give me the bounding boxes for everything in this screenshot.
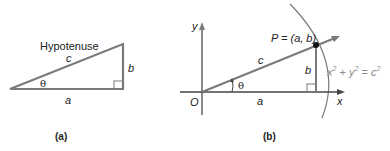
caption-a: (a) (55, 131, 67, 142)
y-axis-label: y (191, 20, 199, 32)
caption-b: (b) (263, 131, 276, 142)
side-b-label: b (128, 62, 134, 74)
right-angle-marker (114, 81, 123, 89)
point-p-label: P = (a, b) (271, 32, 316, 44)
side-a-label: a (65, 94, 71, 106)
side-c-label: c (66, 52, 72, 64)
theta-label: θ (40, 78, 46, 89)
panel-a: Hypotenuse c b a θ (a) (10, 40, 134, 142)
side-b-label: b (305, 64, 311, 76)
origin-label: O (190, 96, 199, 108)
right-angle-marker (307, 84, 316, 92)
panel-b: y x O P = (a, b) c b a θ x2 + y2 = c2 (b… (180, 4, 380, 142)
x-axis-label: x (336, 95, 343, 107)
theta-label: θ (238, 80, 244, 91)
circle-arc (290, 4, 329, 118)
side-a-label: a (257, 95, 263, 107)
circle-equation: x2 + y2 = c2 (326, 65, 380, 78)
hypotenuse-label: Hypotenuse (40, 40, 99, 52)
diagram-canvas: Hypotenuse c b a θ (a) y x O P = (a, b) … (0, 0, 390, 151)
y-axis-arrow (199, 22, 205, 30)
side-c-label: c (258, 54, 264, 66)
